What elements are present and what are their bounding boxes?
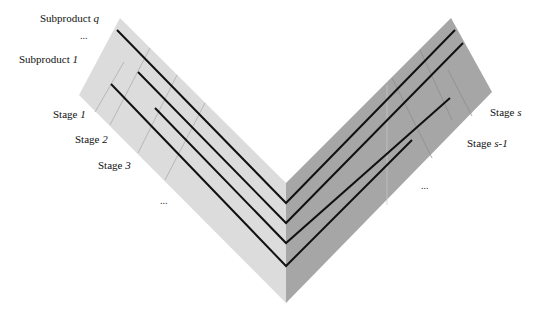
v-diagram bbox=[0, 0, 535, 315]
label-text: Subproduct bbox=[40, 12, 93, 24]
label-text: Subproduct bbox=[19, 53, 72, 65]
label-var: 3 bbox=[125, 159, 131, 171]
label-text: Stage bbox=[98, 159, 125, 171]
label-var: s bbox=[517, 106, 521, 118]
label-stage-s: Stage s bbox=[490, 106, 521, 118]
label-stage-1: Stage 1 bbox=[53, 108, 86, 120]
label-text: Stage bbox=[53, 108, 80, 120]
label-stage-s-minus-1: Stage s-1 bbox=[467, 137, 508, 149]
label-var: s-1 bbox=[494, 137, 507, 149]
label-subproduct-q: Subproduct q bbox=[40, 12, 99, 24]
label-var: 1 bbox=[80, 108, 86, 120]
label-stage-2: Stage 2 bbox=[75, 133, 108, 145]
label-text: Stage bbox=[467, 137, 494, 149]
label-stage-3: Stage 3 bbox=[98, 159, 131, 171]
label-text: Stage bbox=[75, 133, 102, 145]
subproduct-ellipsis: ... bbox=[80, 30, 88, 41]
right-band bbox=[286, 18, 492, 303]
right-stage-ellipsis: ... bbox=[421, 180, 429, 191]
label-var: q bbox=[93, 12, 99, 24]
label-var: 1 bbox=[72, 53, 78, 65]
label-text: Stage bbox=[490, 106, 517, 118]
left-stage-ellipsis: ... bbox=[160, 195, 168, 206]
label-subproduct-1: Subproduct 1 bbox=[19, 53, 78, 65]
label-var: 2 bbox=[102, 133, 108, 145]
